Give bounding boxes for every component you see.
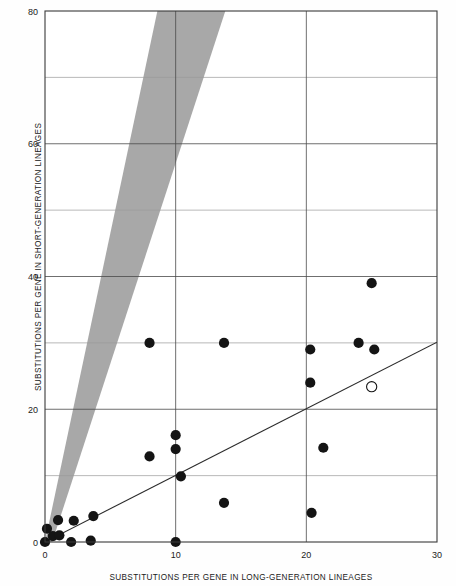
- x-axis-tick-labels: 0102030: [42, 550, 442, 560]
- data-point: [306, 508, 316, 518]
- data-point: [318, 443, 328, 453]
- data-point: [53, 515, 63, 525]
- y-axis-title: SUBSTITUTIONS PER GENE IN SHORT-GENERATI…: [34, 123, 43, 391]
- data-point: [171, 444, 181, 454]
- data-point: [171, 430, 181, 440]
- scatter-plot-canvas: 0102030 020406080: [0, 0, 456, 586]
- data-point: [144, 338, 154, 348]
- data-point: [367, 278, 377, 288]
- chart-figure: 0102030 020406080 SUBSTITUTIONS PER GENE…: [0, 0, 456, 586]
- x-tick-label: 20: [301, 550, 311, 560]
- data-point: [86, 536, 96, 546]
- x-tick-label: 30: [432, 550, 442, 560]
- data-point: [354, 338, 364, 348]
- y-axis-title-wrapper: SUBSTITUTIONS PER GENE IN SHORT-GENERATI…: [27, 151, 45, 391]
- data-points-open: [367, 382, 377, 392]
- data-point: [54, 530, 64, 540]
- data-point: [305, 344, 315, 354]
- y-tick-label: 80: [28, 7, 38, 17]
- x-axis-title-wrapper: SUBSTITUTIONS PER GENE IN LONG-GENERATIO…: [45, 566, 437, 584]
- y-tick-label: 0: [33, 538, 38, 548]
- data-point: [144, 451, 154, 461]
- data-point: [69, 516, 79, 526]
- x-tick-label: 0: [42, 550, 47, 560]
- data-point: [88, 511, 98, 521]
- x-axis-title: SUBSTITUTIONS PER GENE IN LONG-GENERATIO…: [109, 573, 372, 582]
- data-point: [219, 498, 229, 508]
- x-tick-label: 10: [171, 550, 181, 560]
- y-tick-label: 20: [28, 405, 38, 415]
- data-point: [305, 378, 315, 388]
- data-point: [369, 344, 379, 354]
- data-point: [176, 471, 186, 481]
- data-point: [219, 338, 229, 348]
- data-point-open: [367, 382, 377, 392]
